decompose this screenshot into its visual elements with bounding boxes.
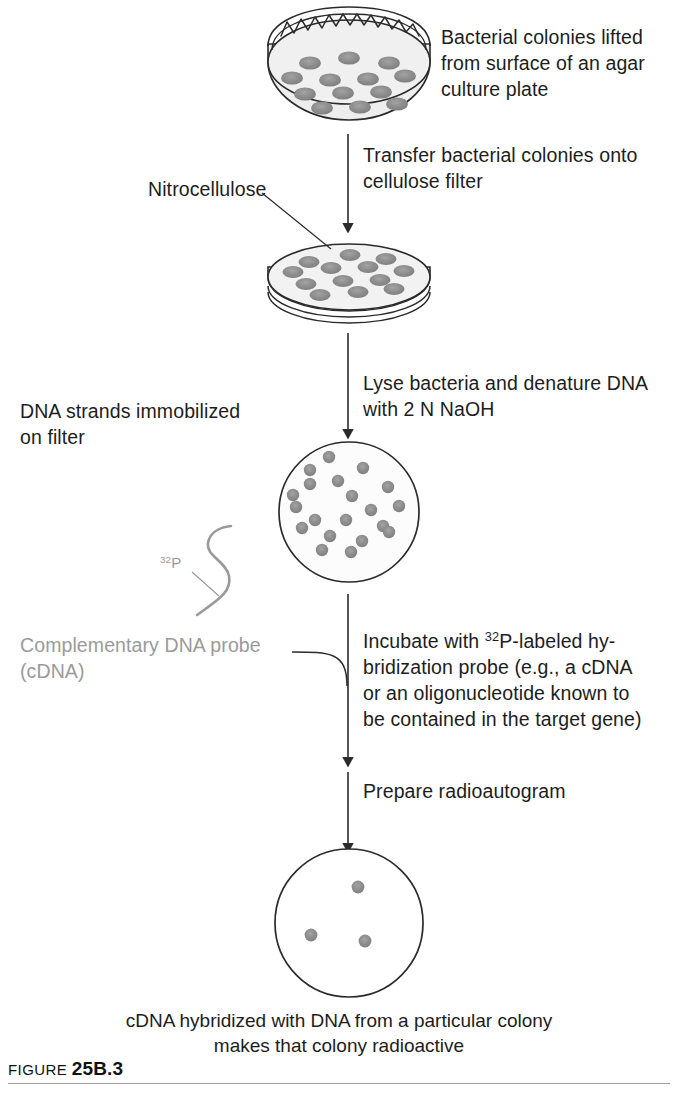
label-nitrocellulose: Nitrocellulose: [148, 176, 338, 202]
label-dna-strands-immobilized: DNA strands immobilized on filter: [20, 398, 270, 450]
step-label-prepare-radioautogram: Prepare radioautogram: [363, 778, 663, 804]
p32-superscript: 32: [160, 554, 171, 565]
stage-filter-immobilized-dna: [279, 442, 419, 582]
leader-line-p32: [192, 572, 219, 596]
label-p32-isotope: 32P: [160, 554, 181, 572]
incubate-line4: be contained in the target gene): [363, 708, 642, 730]
figure-divider: [8, 1083, 670, 1084]
figure-colony-hybridization: Bacterial colonies lifted from surface o…: [0, 0, 678, 1094]
cdna-probe-strand-icon: [192, 526, 231, 615]
figure-number: FIGURE 25B.3: [8, 1058, 123, 1080]
stage-agar-culture-plate: [268, 7, 430, 120]
incubate-line1-pre: Incubate with: [363, 630, 485, 652]
incubate-line3: or an oligonucleotide known to: [363, 682, 629, 704]
label-complementary-dna-probe: Complementary DNA probe (cDNA): [20, 632, 340, 684]
stage-radioautogram: [275, 849, 423, 997]
figure-word: FIGURE: [8, 1061, 67, 1078]
step-label-transfer-colonies: Transfer bacterial colonies onto cellulo…: [363, 142, 673, 194]
note-agar-culture-plate: Bacterial colonies lifted from surface o…: [441, 24, 678, 102]
incubate-line1-post: P-labeled hy-: [499, 630, 615, 652]
figure-caption: cDNA hybridized with DNA from a particul…: [39, 1008, 639, 1058]
incubate-line2: bridization probe (e.g., a cDNA: [363, 656, 633, 678]
incubate-superscript-32: 32: [485, 629, 500, 644]
p32-element: P: [171, 554, 181, 571]
stage-nitrocellulose-filter: [262, 193, 430, 323]
figure-footer: FIGURE 25B.3: [8, 1058, 670, 1088]
step-label-incubate-probe: Incubate with 32P-labeled hy-bridization…: [363, 628, 675, 732]
figure-number-value: 25B.3: [72, 1058, 124, 1079]
step-label-lyse-denature: Lyse bacteria and denature DNA with 2 N …: [363, 370, 663, 422]
